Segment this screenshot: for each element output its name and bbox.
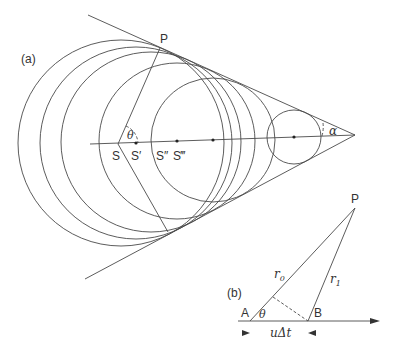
right-marker-arrow-icon: [308, 330, 316, 336]
source-dot-s3: [211, 138, 214, 141]
panel-a-label: (a): [21, 53, 36, 65]
r0-line: [250, 208, 355, 321]
source-s-prime-label: S′: [131, 150, 141, 162]
diagram-canvas: [0, 0, 394, 351]
source-s-double-prime-label: S″: [156, 150, 168, 162]
perpendicular-dashed: [273, 297, 308, 321]
axis-arrowhead-icon: [370, 318, 380, 324]
r0-label: r0: [274, 268, 285, 280]
theta-b-label: θ: [259, 309, 266, 320]
source-dot-s4: [292, 135, 295, 138]
r1-line: [308, 208, 355, 321]
point-a-label: A: [241, 307, 249, 319]
panel-b-label: (b): [227, 287, 242, 299]
point-p-label: P: [160, 33, 168, 45]
panel-a-geometry: [18, 15, 355, 279]
theta-label: θ: [127, 130, 134, 141]
source-dot-s2: [175, 139, 178, 142]
source-s-triple-prime-label: S‴: [173, 150, 185, 162]
distance-label: uΔt: [270, 327, 291, 339]
point-p-b-label: P: [351, 193, 359, 205]
point-b-label: B: [314, 307, 322, 319]
r1-label: r1: [330, 273, 341, 285]
mach-cone-upper-line: [88, 15, 355, 135]
left-marker-arrow-icon: [242, 330, 250, 336]
alpha-label: α: [329, 125, 337, 137]
source-dot-s1: [134, 141, 137, 144]
alpha-arc: [322, 123, 323, 136]
ray-to-P: [118, 48, 160, 144]
source-s-label: S: [112, 150, 120, 162]
